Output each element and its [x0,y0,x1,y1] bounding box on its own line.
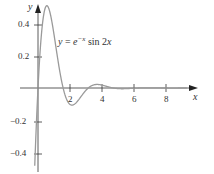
function-curve [35,6,187,166]
eq-exponent: −x [78,35,86,43]
xtick-label-4: 4 [100,95,105,104]
chart-canvas [0,0,214,174]
ytick-label-neg0.2: −0.2 [10,117,26,126]
function-equation-label: y = e−x sin 2x [58,36,112,47]
y-axis-arrow-icon [35,4,41,13]
eq-y: y [58,36,62,47]
ytick-label-0.4: 0.4 [18,20,29,29]
ytick-label-neg0.4: −0.4 [10,149,26,158]
x-axis-label: x [193,92,197,102]
eq-equals: = [65,36,71,47]
xtick-label-6: 6 [132,95,137,104]
xtick-label-2: 2 [68,95,73,104]
eq-sin: sin 2 [88,36,107,47]
xtick-label-8: 8 [164,95,169,104]
ytick-label-0.2: 0.2 [18,52,29,61]
eq-x: x [107,36,111,47]
y-axis-label: y [28,2,32,12]
